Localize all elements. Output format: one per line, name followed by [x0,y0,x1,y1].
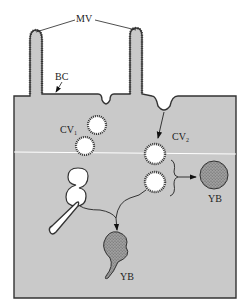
bc-arrow [56,82,62,92]
yolk-body-right [200,161,228,189]
label-bc: BC [55,71,69,82]
label-yb-right: YB [208,193,222,204]
mv-leader-left [36,20,75,32]
label-yb-bottom: YB [120,271,134,282]
label-mv: MV [76,13,93,24]
endocytosis-diagram: MV BC CV1 CV2 YB YB [0,0,245,301]
bristle-coat-edge [30,28,142,94]
mv-leader-right [95,20,136,30]
